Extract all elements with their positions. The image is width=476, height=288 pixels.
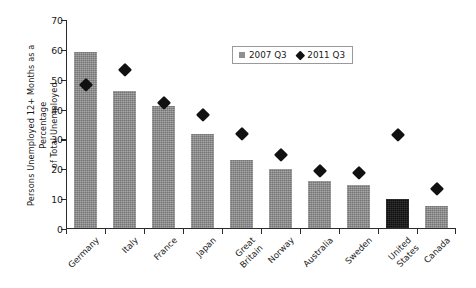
x-tick-mark [300, 229, 301, 234]
x-tick-mark [105, 229, 106, 234]
unemployment-duration-bar-chart: Persons Unemployed 12+ Months as a Perce… [0, 0, 476, 288]
x-tick-mark [339, 229, 340, 234]
legend-entry-2011: 2011 Q3 [297, 50, 345, 60]
x-tick-mark [261, 229, 262, 234]
y-tick-label: 30 [51, 134, 63, 145]
diamond-marker-norway [274, 148, 287, 161]
y-tick-label: 40 [51, 104, 63, 115]
legend-label-2011: 2011 Q3 [307, 50, 345, 60]
bar-canada [425, 206, 448, 228]
diamond-marker-sweden [352, 166, 365, 179]
diamond-marker-australia [313, 164, 326, 177]
y-tick-label: 50 [51, 74, 63, 85]
x-tick-mark [222, 229, 223, 234]
x-tick-mark [66, 229, 67, 234]
x-tick-mark [378, 229, 379, 234]
bar-japan [191, 134, 214, 228]
x-tick-mark [183, 229, 184, 234]
x-tick-mark [455, 229, 456, 234]
y-tick-label: 10 [51, 194, 63, 205]
diamond-marker-japan [196, 107, 209, 120]
bar-australia [308, 181, 331, 229]
bar-norway [269, 169, 292, 229]
diamond-marker-canada [430, 182, 443, 195]
y-tick-label: 70 [51, 15, 63, 26]
bar-france [152, 106, 175, 228]
bar-united-states [386, 199, 409, 229]
square-marker-icon [239, 52, 245, 58]
legend-label-2007: 2007 Q3 [249, 50, 287, 60]
x-tick-mark [144, 229, 145, 234]
y-tick-label: 20 [51, 164, 63, 175]
diamond-marker-icon [295, 50, 304, 59]
legend-entry-2007: 2007 Q3 [239, 50, 287, 60]
diamond-marker-italy [118, 63, 131, 76]
x-tick-mark [417, 229, 418, 234]
diamond-marker-united-states [391, 128, 404, 141]
bar-great-britain [230, 160, 253, 229]
bar-italy [113, 91, 136, 228]
y-tick-label: 60 [51, 44, 63, 55]
diamond-marker-great-britain [235, 127, 248, 140]
bar-sweden [347, 185, 370, 228]
y-tick-label: 0 [57, 224, 63, 235]
y-axis-line [66, 20, 67, 229]
chart-legend: 2007 Q3 2011 Q3 [232, 46, 353, 64]
